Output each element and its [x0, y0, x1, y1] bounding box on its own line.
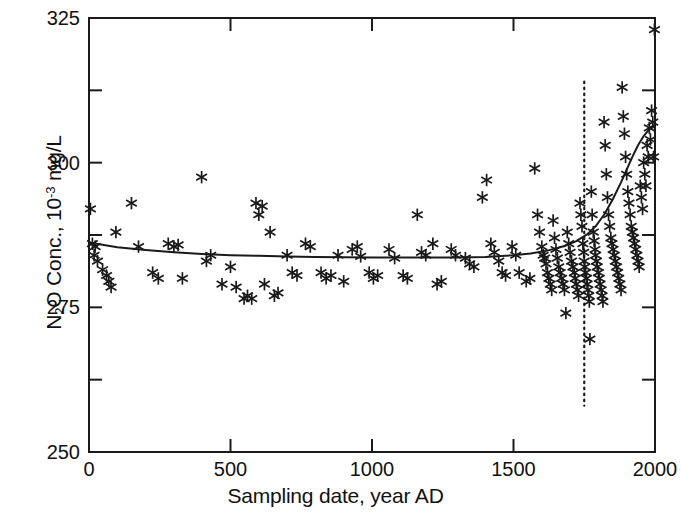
data-point-marker [259, 278, 270, 290]
data-point-marker [265, 226, 276, 238]
data-point-marker [177, 272, 188, 284]
data-point-marker [412, 209, 423, 221]
data-point-marker [549, 232, 560, 244]
data-point-marker [641, 180, 652, 192]
data-point-marker [565, 246, 576, 258]
data-point-marker [333, 249, 344, 261]
data-point-marker [552, 252, 563, 264]
fitted-trend-line [89, 126, 655, 257]
data-point-marker [427, 237, 438, 249]
data-point-marker [560, 307, 571, 319]
data-point-marker [635, 180, 646, 192]
data-point-marker [534, 226, 545, 238]
data-point-marker [637, 203, 648, 215]
data-point-marker [600, 139, 611, 151]
data-point-marker [126, 197, 137, 209]
data-point-marker [586, 185, 597, 197]
data-point-marker [548, 214, 559, 226]
data-point-marker [625, 209, 636, 221]
plot-border [89, 18, 655, 452]
data-point-marker [282, 249, 293, 261]
data-point-marker [529, 162, 540, 174]
data-point-marker [225, 261, 236, 273]
data-points [85, 23, 660, 345]
data-point-marker [587, 209, 598, 221]
data-point-marker [601, 168, 612, 180]
data-point-marker [111, 226, 122, 238]
data-point-marker [532, 209, 543, 221]
data-point-marker [196, 171, 207, 183]
data-point-marker [562, 226, 573, 238]
data-point-marker [577, 220, 588, 232]
data-point-marker [231, 281, 242, 293]
plot-frame [89, 18, 655, 452]
data-point-marker [639, 168, 650, 180]
data-point-marker [624, 197, 635, 209]
data-point-marker [217, 278, 228, 290]
data-point-marker [618, 110, 629, 122]
data-point-marker [622, 185, 633, 197]
data-point-marker [85, 203, 96, 215]
axis-ticks [89, 18, 655, 452]
data-point-marker [604, 220, 615, 232]
data-point-marker [585, 333, 596, 345]
data-point-marker [477, 191, 488, 203]
data-point-marker [619, 128, 630, 140]
data-point-marker [649, 23, 660, 35]
data-point-marker [599, 116, 610, 128]
data-point-marker [338, 275, 349, 287]
data-point-marker [620, 151, 631, 163]
data-point-marker [133, 240, 144, 252]
data-point-marker [636, 191, 647, 203]
data-point-marker [514, 266, 525, 278]
data-point-marker [617, 81, 628, 93]
data-point-marker [481, 174, 492, 186]
data-point-marker [384, 243, 395, 255]
trend-curve [89, 126, 655, 257]
